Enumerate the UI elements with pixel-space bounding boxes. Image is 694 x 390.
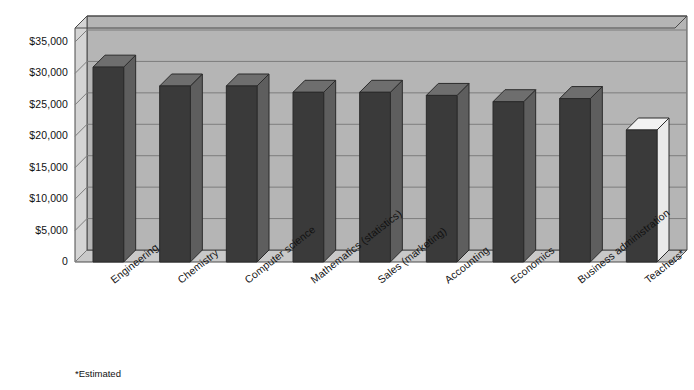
bar-side-face [590,87,602,262]
y-axis-tick-label: 0 [0,255,68,267]
bar-side-face [524,90,536,262]
y-axis-tick-label: $25,000 [0,98,68,110]
bar-front-face [160,86,191,262]
chart-canvas [0,0,694,390]
bar-front-face [493,102,524,262]
y-axis-tick-label: $10,000 [0,192,68,204]
bar-side-face [124,55,136,262]
chart-footnote: *Estimated [75,368,121,379]
bar-side-face [257,74,269,262]
y-axis-tick-label: $20,000 [0,129,68,141]
y-axis-tick-label: $5,000 [0,224,68,236]
y-axis-tick-label: $15,000 [0,161,68,173]
bar-chart: 0$5,000$10,000$15,000$20,000$25,000$30,0… [0,0,694,390]
bar-front-face [560,99,591,262]
bar-side-face [657,118,669,262]
bar-front-face [226,86,257,262]
bar-side-face [457,83,469,262]
bar-side-face [390,80,402,262]
bar-side-face [324,80,336,262]
y-axis-tick-label: $30,000 [0,66,68,78]
bar-side-face [190,74,202,262]
y-axis-tick-label: $35,000 [0,35,68,47]
bar-front-face [93,67,124,262]
